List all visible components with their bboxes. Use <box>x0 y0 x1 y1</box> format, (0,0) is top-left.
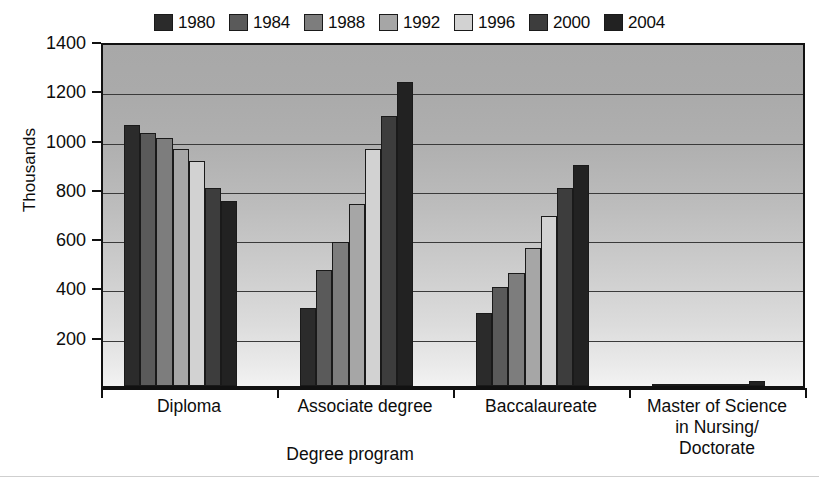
legend-item-1988: 1988 <box>304 14 365 31</box>
category-label-1: Associate degree <box>277 396 453 417</box>
y-tick-200 <box>92 338 101 340</box>
bar-1980-cat0 <box>124 125 140 386</box>
y-tick-label-800: 800 <box>8 182 86 200</box>
bar-1996-cat3 <box>717 384 733 386</box>
legend-swatch-1996 <box>454 14 473 31</box>
legend-item-1980: 1980 <box>154 14 215 31</box>
bar-1996-cat1 <box>365 149 381 386</box>
legend-label-1988: 1988 <box>328 14 365 31</box>
y-tick-1200 <box>92 91 101 93</box>
bar-chart: 1980198419881992199620002004 Thousands 2… <box>0 0 819 481</box>
legend-item-1992: 1992 <box>379 14 440 31</box>
chart-legend: 1980198419881992199620002004 <box>0 9 819 35</box>
legend-label-2000: 2000 <box>553 14 590 31</box>
y-tick-label-400: 400 <box>8 280 86 298</box>
legend-item-2000: 2000 <box>529 14 590 31</box>
legend-item-2004: 2004 <box>604 14 665 31</box>
bar-1984-cat2 <box>492 287 508 386</box>
y-tick-600 <box>92 239 101 241</box>
y-tick-label-1200: 1200 <box>8 83 86 101</box>
y-tick-label-600: 600 <box>8 231 86 249</box>
category-label-line: in Nursing/ <box>629 417 805 438</box>
bar-1980-cat1 <box>300 308 316 386</box>
bar-2004-cat1 <box>397 82 413 386</box>
legend-item-1996: 1996 <box>454 14 515 31</box>
legend-swatch-1992 <box>379 14 398 31</box>
x-axis-title: Degree program <box>0 444 700 465</box>
bar-1992-cat0 <box>173 149 189 386</box>
y-tick-800 <box>92 190 101 192</box>
y-tick-label-1400: 1400 <box>8 34 86 52</box>
bar-1996-cat2 <box>541 216 557 386</box>
y-tick-label-1000: 1000 <box>8 133 86 151</box>
legend-label-1980: 1980 <box>178 14 215 31</box>
y-tick-400 <box>92 288 101 290</box>
y-tick-1000 <box>92 141 101 143</box>
legend-label-1996: 1996 <box>478 14 515 31</box>
bar-1992-cat2 <box>525 248 541 386</box>
bar-1984-cat1 <box>316 270 332 386</box>
bar-2000-cat1 <box>381 116 397 386</box>
category-label-line: Baccalaureate <box>453 396 629 417</box>
y-tick-label-200: 200 <box>8 330 86 348</box>
legend-label-2004: 2004 <box>628 14 665 31</box>
category-label-0: Diploma <box>101 396 277 417</box>
bar-1992-cat3 <box>701 384 717 386</box>
x-tick-4 <box>805 388 807 398</box>
legend-swatch-2004 <box>604 14 623 31</box>
bar-1996-cat0 <box>189 161 205 386</box>
plot-area <box>101 43 805 388</box>
y-tick-1400 <box>92 42 101 44</box>
bar-2000-cat2 <box>557 188 573 386</box>
bars-layer <box>103 45 803 386</box>
legend-swatch-1984 <box>229 14 248 31</box>
bar-2000-cat0 <box>205 188 221 386</box>
bar-1984-cat3 <box>668 384 684 386</box>
category-label-2: Baccalaureate <box>453 396 629 417</box>
legend-label-1984: 1984 <box>253 14 290 31</box>
bar-2004-cat2 <box>573 165 589 386</box>
bar-1988-cat3 <box>684 384 700 386</box>
bar-1984-cat0 <box>140 133 156 386</box>
bottom-divider <box>0 476 819 477</box>
legend-swatch-1988 <box>304 14 323 31</box>
legend-swatch-1980 <box>154 14 173 31</box>
legend-item-1984: 1984 <box>229 14 290 31</box>
category-label-line: Associate degree <box>277 396 453 417</box>
bar-2000-cat3 <box>733 384 749 386</box>
bar-1980-cat2 <box>476 313 492 386</box>
legend-label-1992: 1992 <box>403 14 440 31</box>
bar-1988-cat0 <box>156 138 172 386</box>
bar-1980-cat3 <box>652 384 668 386</box>
category-label-line: Diploma <box>101 396 277 417</box>
bar-2004-cat3 <box>749 381 765 386</box>
legend-swatch-2000 <box>529 14 548 31</box>
category-label-line: Master of Science <box>629 396 805 417</box>
bar-1988-cat2 <box>508 273 524 386</box>
bar-2004-cat0 <box>221 201 237 386</box>
bar-1988-cat1 <box>332 242 348 386</box>
bar-1992-cat1 <box>349 204 365 386</box>
